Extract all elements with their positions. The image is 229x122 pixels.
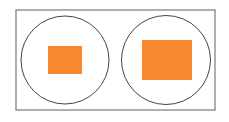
left-small-rectangle: [48, 46, 82, 74]
right-large-rectangle: [142, 40, 192, 80]
diagram-svg: [0, 0, 229, 122]
diagram-canvas: [0, 0, 229, 122]
